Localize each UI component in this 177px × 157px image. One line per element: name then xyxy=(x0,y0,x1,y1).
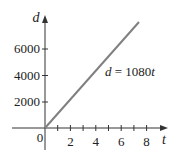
y-tick-label: 2000 xyxy=(14,94,40,109)
x-tick-label: 4 xyxy=(93,134,100,149)
x-axis-arrow-icon xyxy=(160,125,168,131)
y-axis-arrow-icon xyxy=(42,15,48,23)
chart: 2 4 6 8 2000 4000 6000 0 d t d = 1080t xyxy=(0,0,177,157)
y-tick-label: 6000 xyxy=(14,41,40,56)
x-axis-label: t xyxy=(162,132,167,147)
y-axis-label: d xyxy=(33,10,41,25)
x-tick-label: 6 xyxy=(118,134,125,149)
x-tick-label: 8 xyxy=(143,134,150,149)
equation-annotation: d = 1080t xyxy=(105,64,155,79)
x-tick-label: 2 xyxy=(67,134,74,149)
y-tick-label: 4000 xyxy=(14,68,40,83)
origin-label: 0 xyxy=(37,130,44,145)
